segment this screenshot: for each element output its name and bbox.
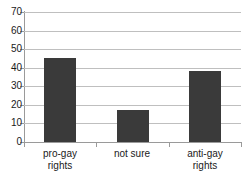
y-tick-label: 0 (0, 137, 22, 147)
x-axis-label-line: rights (24, 160, 96, 172)
x-axis-label-line: rights (169, 160, 241, 172)
x-axis-label-line: pro-gay (24, 148, 96, 160)
bar (44, 58, 76, 142)
bar-chart: 010203040506070 pro-gayrightsnot sureant… (0, 0, 248, 177)
y-tick-label: 50 (0, 44, 22, 54)
x-tick-mark (169, 143, 170, 147)
x-axis-label-line: not sure (96, 148, 168, 160)
x-axis-line (24, 142, 242, 143)
y-tick-label: 10 (0, 118, 22, 128)
x-axis-label: not sure (96, 148, 168, 160)
x-tick-mark (24, 143, 25, 147)
x-tick-mark (241, 143, 242, 147)
y-tick-label: 70 (0, 7, 22, 17)
x-axis-label: anti-gayrights (169, 148, 241, 172)
y-tick-label: 30 (0, 81, 22, 91)
y-tick-label: 20 (0, 100, 22, 110)
x-tick-mark (96, 143, 97, 147)
bar (117, 110, 149, 142)
y-tick-label: 60 (0, 26, 22, 36)
bar (189, 71, 221, 142)
plot-area (24, 12, 241, 142)
x-axis-label: pro-gayrights (24, 148, 96, 172)
x-axis-label-line: anti-gay (169, 148, 241, 160)
y-tick-label: 40 (0, 63, 22, 73)
